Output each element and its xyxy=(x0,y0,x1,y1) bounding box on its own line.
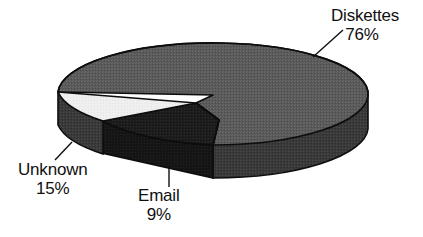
slice-label-diskettes-value: 76% xyxy=(331,25,399,44)
unknown-leader-line xyxy=(55,142,72,160)
pie-3d-body xyxy=(58,43,368,178)
slice-label-email: Email 9% xyxy=(138,186,180,224)
slice-label-unknown-value: 15% xyxy=(18,179,87,198)
slice-label-email-name: Email xyxy=(138,186,180,205)
slice-label-email-value: 9% xyxy=(138,205,180,224)
slice-label-unknown-name: Unknown xyxy=(18,160,87,179)
slice-label-diskettes: Diskettes 76% xyxy=(331,6,399,44)
pie-chart: Diskettes 76% Unknown 15% Email 9% xyxy=(0,0,423,237)
slice-label-unknown: Unknown 15% xyxy=(18,160,87,198)
slice-label-diskettes-name: Diskettes xyxy=(331,6,399,25)
